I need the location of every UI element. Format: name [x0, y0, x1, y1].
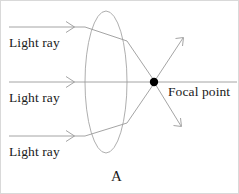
focal-point-dot: [150, 78, 158, 86]
incoming-ray-bottom: [9, 131, 85, 142]
internal-path-top: [85, 27, 127, 41]
light-ray-middle-label: Light ray: [9, 91, 60, 105]
converging-ray-bottom: [127, 82, 155, 123]
focal-point-label: Focal point: [168, 85, 230, 99]
optics-diagram-figure: Light ray Light ray Light ray Focal poin…: [0, 0, 239, 194]
converging-ray-top: [127, 41, 155, 82]
diverging-ray-upper: [154, 38, 184, 83]
incoming-ray-top: [9, 22, 85, 33]
diagram-caption: A: [111, 169, 122, 184]
light-ray-top-label: Light ray: [9, 36, 60, 50]
incoming-ray-middle: [9, 77, 85, 88]
light-ray-bottom-label: Light ray: [9, 145, 60, 159]
